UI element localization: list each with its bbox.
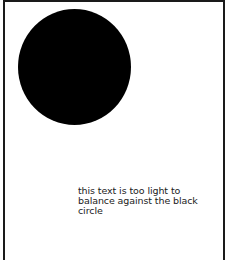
caption-line-3: circle	[78, 206, 218, 216]
black-circle	[18, 9, 131, 125]
caption-text: this text is too light to balance agains…	[78, 186, 218, 216]
